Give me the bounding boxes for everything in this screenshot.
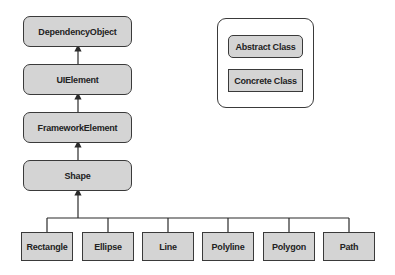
node-ellipse: Ellipse <box>82 232 134 261</box>
legend-abstract-class: Abstract Class <box>228 35 303 58</box>
node-polyline: Polyline <box>202 232 254 261</box>
legend-concrete-class: Concrete Class <box>228 69 303 92</box>
node-line: Line <box>142 232 194 261</box>
node-path: Path <box>323 232 375 261</box>
legend-box: Abstract Class Concrete Class <box>217 18 314 108</box>
node-polygon: Polygon <box>263 232 315 261</box>
node-framework-element: FrameworkElement <box>23 112 132 143</box>
node-dependency-object: DependencyObject <box>23 16 132 47</box>
node-shape: Shape <box>23 160 132 191</box>
node-ui-element: UIElement <box>23 64 132 95</box>
node-rectangle: Rectangle <box>21 232 73 261</box>
